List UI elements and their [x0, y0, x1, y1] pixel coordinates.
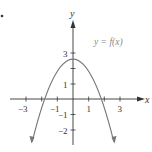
graph-figure: x y −3 −1 1 3 3 1 −1 −2 [0, 0, 152, 152]
y-tick-label-neg1: −1 [58, 110, 68, 120]
x-axis-label: x [144, 94, 150, 105]
curve-left-arrow-icon [30, 136, 35, 144]
y-axis-arrow-icon [71, 20, 76, 28]
function-label: y = f(x) [93, 37, 123, 48]
x-tick-label-3: 3 [118, 104, 123, 114]
y-tick-label-3: 3 [63, 49, 68, 59]
y-tick-label-neg2: −2 [58, 126, 68, 136]
x-tick-label-neg3: −3 [18, 104, 28, 114]
bullet-marker [1, 15, 4, 18]
y-axis-label: y [69, 8, 75, 19]
x-axis-arrow-icon [137, 97, 145, 102]
curve-right-arrow-icon [112, 136, 117, 144]
y-tick-label-1: 1 [63, 80, 68, 90]
x-tick-label-1: 1 [87, 104, 92, 114]
parabola-plot: x y −3 −1 1 3 3 1 −1 −2 [0, 0, 152, 152]
